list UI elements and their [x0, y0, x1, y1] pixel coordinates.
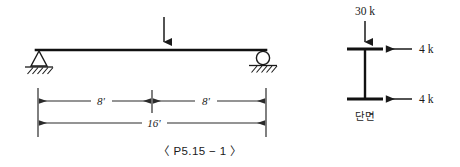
dimension-left-8ft: 8' [39, 95, 151, 107]
section-diagram-group: 30 k 4 k 4 k 단면 [347, 5, 434, 122]
engineering-diagram: 8' 8' 16' 〈 P5.15 − 1 〉 30 k [0, 0, 460, 167]
figure-container: 8' 8' 16' 〈 P5.15 − 1 〉 30 k [0, 0, 460, 167]
pin-support [25, 51, 53, 74]
label-horizontal-load-bottom-4k: 4 k [419, 93, 434, 105]
roller-support-hatching [252, 66, 278, 73]
label-horizontal-load-top-4k: 4 k [419, 43, 434, 55]
dimension-extension-lines [38, 88, 266, 137]
section-label: 단면 [355, 110, 375, 122]
horizontal-load-top-4k: 4 k [386, 43, 434, 55]
dim-label-left-8ft: 8' [97, 95, 106, 107]
pin-support-triangle [31, 51, 47, 66]
dim-label-total-16ft: 16' [147, 117, 161, 129]
horizontal-load-bottom-4k: 4 k [386, 93, 434, 105]
pin-support-hatching [28, 68, 54, 75]
label-vertical-load-30k: 30 k [355, 5, 375, 17]
figure-caption: 〈 P5.15 − 1 〉 [158, 145, 241, 157]
dimension-right-8ft: 8' [153, 95, 265, 107]
roller-support [249, 51, 277, 72]
beam-elevation-group: 8' 8' 16' 〈 P5.15 − 1 〉 [25, 17, 277, 157]
dimension-total-16ft: 16' [39, 117, 265, 129]
i-beam-section [347, 49, 383, 99]
dim-label-right-8ft: 8' [202, 95, 211, 107]
roller-support-circle [256, 51, 269, 64]
